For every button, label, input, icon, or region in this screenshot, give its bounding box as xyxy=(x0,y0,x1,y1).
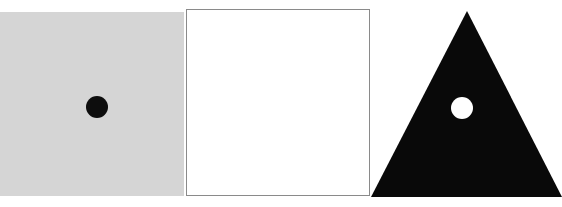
shape-canvas xyxy=(0,0,562,207)
gray-square-panel xyxy=(0,12,184,196)
triangle-graphic xyxy=(371,11,562,197)
black-dot-icon xyxy=(86,96,108,118)
white-square-panel xyxy=(186,9,370,196)
black-triangle-panel xyxy=(371,11,562,197)
white-dot-icon xyxy=(451,97,473,119)
